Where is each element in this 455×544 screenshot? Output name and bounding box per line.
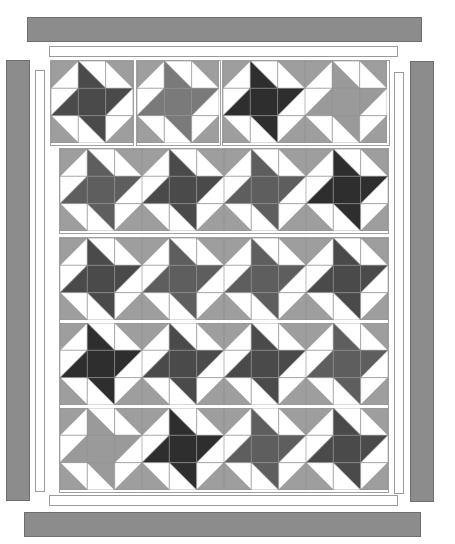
pinwheel-star-block	[142, 149, 224, 231]
pinwheel-star-block	[51, 61, 133, 143]
pinwheel-star-block	[137, 61, 219, 143]
pinwheel-star-block	[224, 323, 306, 405]
left-sashing-strip	[35, 70, 45, 492]
pinwheel-star-block	[142, 408, 224, 490]
pinwheel-star-block	[142, 323, 224, 405]
left-border-bar	[6, 60, 30, 501]
pinwheel-star-block	[142, 238, 224, 320]
right-border-bar	[410, 61, 434, 502]
right-sashing-strip	[394, 72, 404, 494]
pinwheel-star-block	[60, 408, 142, 490]
pinwheel-star-block	[306, 323, 388, 405]
top-border-bar	[27, 17, 422, 42]
pinwheel-star-block	[223, 61, 305, 143]
pinwheel-star-block	[60, 149, 142, 231]
bottom-sashing-strip	[49, 495, 398, 506]
pinwheel-star-block	[224, 238, 306, 320]
pinwheel-star-block	[60, 238, 142, 320]
pinwheel-star-block	[306, 149, 388, 231]
pinwheel-star-block	[60, 323, 142, 405]
pinwheel-star-block	[224, 408, 306, 490]
pinwheel-star-block	[306, 408, 388, 490]
pinwheel-star-block	[224, 149, 306, 231]
pinwheel-star-block	[306, 238, 388, 320]
pinwheel-star-block	[305, 61, 387, 143]
top-sashing-strip	[49, 46, 398, 57]
bottom-border-bar	[24, 512, 421, 537]
